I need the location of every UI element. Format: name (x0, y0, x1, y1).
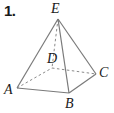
vertex-label-C: C (99, 66, 108, 80)
edge-B-C (69, 74, 96, 93)
edge-E-B (58, 19, 69, 93)
edge-A-B (17, 88, 69, 93)
vertex-label-D: D (47, 52, 57, 66)
edge-D-C (52, 68, 96, 74)
vertex-label-E: E (51, 2, 60, 16)
vertex-label-A: A (4, 83, 13, 97)
edge-E-C (58, 19, 96, 74)
vertex-label-B: B (65, 97, 74, 111)
problem-figure-panel: 1. E D A C B (0, 0, 114, 113)
